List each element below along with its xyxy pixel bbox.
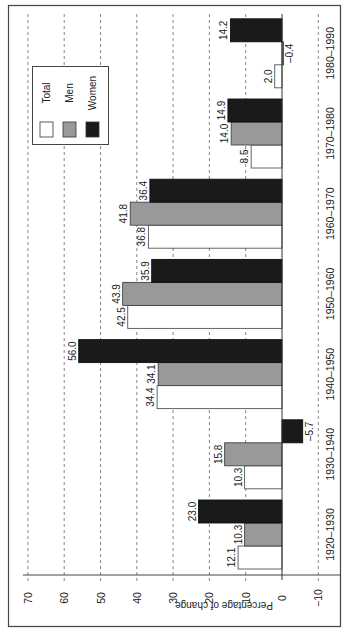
bar-men	[158, 363, 282, 386]
data-label: 34.1	[146, 364, 157, 384]
bar-women	[228, 99, 282, 122]
category-label: 1980–1990	[324, 27, 336, 80]
category-label: 1940–1950	[324, 348, 336, 401]
bar-men	[130, 202, 282, 225]
bar-total	[251, 145, 282, 168]
legend: TotalMenWomen	[33, 67, 109, 145]
bar-total	[238, 546, 282, 569]
legend-label-men: Men	[64, 83, 75, 102]
data-label: 43.9	[111, 284, 122, 304]
data-label: 14.0	[219, 123, 230, 143]
y-tick-label: 50	[95, 592, 107, 604]
bar-men	[231, 122, 282, 145]
bar-chart: −100102030405060701920–19301930–19401940…	[0, 0, 346, 634]
y-tick-label: 70	[22, 592, 34, 604]
data-label: 10.3	[233, 467, 244, 487]
category-label: 1930–1940	[324, 428, 336, 481]
y-tick-label: 0	[276, 595, 288, 601]
bar-men	[225, 443, 282, 466]
y-tick-label: −10	[312, 589, 324, 607]
bar-women	[152, 259, 282, 282]
bar-women	[199, 500, 282, 523]
bar-total	[157, 386, 282, 409]
data-label: –5.7	[304, 421, 315, 441]
data-label: 41.8	[118, 204, 129, 224]
legend-label-total: Total	[41, 82, 52, 103]
bar-total	[275, 65, 282, 88]
data-label: 23.0	[187, 501, 198, 521]
legend-swatch-men	[63, 122, 76, 137]
bar-women	[230, 19, 282, 42]
data-label: 36.8	[136, 227, 147, 247]
data-label: 14.9	[216, 100, 227, 120]
bar-women	[150, 179, 282, 202]
y-tick-label: 40	[131, 592, 143, 604]
bar-women	[282, 420, 303, 443]
category-label: 1970–1980	[324, 107, 336, 160]
category-label: 1960–1970	[324, 187, 336, 240]
data-label: 42.5	[116, 307, 127, 327]
legend-label-women: Women	[87, 76, 98, 110]
legend-swatch-total	[40, 122, 53, 137]
data-label: 8.5	[239, 149, 250, 163]
data-label: 34.4	[145, 387, 156, 407]
category-label: 1920–1930	[324, 508, 336, 561]
bar-men	[123, 282, 282, 305]
data-label: 36.4	[138, 181, 149, 201]
bar-total	[128, 305, 282, 328]
y-tick-label: 60	[58, 592, 70, 604]
bar-men	[245, 523, 282, 546]
data-label: 35.9	[140, 261, 151, 281]
category-label: 1950–1960	[324, 267, 336, 320]
y-axis-title: Percentage of change	[175, 600, 273, 611]
legend-swatch-women	[86, 122, 99, 137]
data-label: 56.0	[67, 341, 78, 361]
bar-women	[79, 340, 282, 363]
data-label: 15.8	[213, 444, 224, 464]
data-label: 12.1	[226, 547, 237, 567]
data-label: –0.4	[284, 43, 295, 63]
bar-total	[148, 225, 282, 248]
bar-total	[245, 466, 282, 489]
data-label: 10.3	[233, 524, 244, 544]
data-label: 2.0	[263, 69, 274, 83]
data-label: 14.2	[218, 20, 229, 40]
